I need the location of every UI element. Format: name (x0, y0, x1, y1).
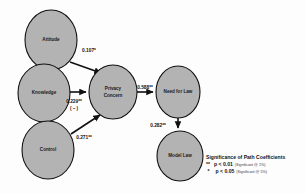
node-knowledge[interactable]: Knowledge (18, 64, 70, 122)
legend-note-p05: (Significant @ 5%) (236, 169, 267, 175)
path-label-need-for-law-to-model-law: 0.282** (150, 123, 166, 128)
node-need-for-law-label: Need for Law (164, 89, 193, 94)
path-label-privacy-concern-to-need-for-law: 0.588** (137, 85, 153, 90)
arrow-attitude-to-privacy-concern (70, 62, 101, 73)
arrow-control-to-privacy-concern (71, 115, 100, 134)
node-privacy-concern[interactable]: Privacy Concern (89, 65, 137, 119)
path-annotation-knowledge-to-privacy-concern: ( – ) (70, 106, 79, 111)
node-attitude[interactable]: Attitude (25, 10, 77, 70)
node-need-for-law[interactable]: Need for Law (156, 66, 200, 118)
path-label-control-to-privacy-concern: 0.271** (76, 135, 92, 140)
legend-title: Significance of Path Coefficients (206, 154, 302, 161)
node-knowledge-label: Knowledge (32, 90, 57, 95)
node-control[interactable]: Control (22, 121, 74, 179)
node-privacy-concern-label-line1: Privacy (105, 86, 122, 91)
legend-pvalue-p01: p < 0.01 (214, 161, 233, 167)
node-model-law-label: Model Law (168, 153, 192, 158)
significance-legend: Significance of Path Coefficients ** p <… (206, 154, 302, 176)
node-privacy-concern-shape[interactable] (89, 65, 137, 119)
legend-row-p01: ** p < 0.01 (Significant @ 1%) (206, 161, 302, 168)
path-label-knowledge-to-privacy-concern: 0.229** (66, 99, 82, 104)
node-attitude-label: Attitude (42, 37, 60, 42)
legend-row-p05: * p < 0.05 (Significant @ 5%) (206, 168, 302, 175)
legend-stars-p05: * (206, 168, 216, 174)
node-control-label: Control (40, 147, 56, 152)
legend-stars-p01: ** (206, 161, 214, 167)
path-label-attitude-to-privacy-concern: 0.107* (82, 48, 96, 53)
node-model-law[interactable]: Model Law (157, 131, 203, 181)
legend-note-p01: (Significant @ 1%) (235, 162, 266, 168)
node-privacy-concern-label-line2: Concern (104, 93, 123, 98)
path-diagram-page: Attitude Knowledge Control Privacy Conce… (0, 0, 305, 193)
legend-pvalue-p05: p < 0.05 (216, 168, 235, 174)
